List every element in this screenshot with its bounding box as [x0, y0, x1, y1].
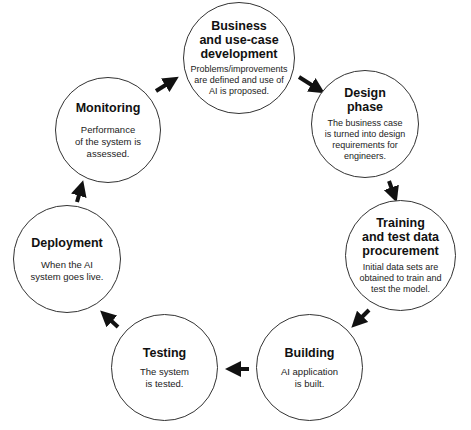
node-training-desc: Initial data sets are obtained to train … — [359, 262, 441, 295]
arrow-business-to-design-icon — [299, 77, 318, 89]
node-business: Business and use-case development Proble… — [183, 2, 295, 114]
node-deployment-title: Deployment — [31, 236, 103, 250]
node-design: Design phase The business case is turned… — [311, 70, 419, 178]
node-testing: Testing The system is tested. — [111, 314, 218, 421]
arrow-training-to-building-icon — [357, 310, 369, 322]
arrow-deployment-to-monitoring-icon — [77, 188, 81, 202]
node-testing-desc: The system is tested. — [140, 366, 189, 390]
node-business-title: Business and use-case development — [199, 19, 278, 61]
node-design-title: Design phase — [344, 86, 386, 114]
arrow-monitoring-to-business-icon — [156, 81, 172, 91]
node-building-title: Building — [285, 346, 335, 360]
node-design-desc: The business case is turned into design … — [325, 118, 406, 162]
node-testing-title: Testing — [143, 346, 187, 360]
arrow-testing-to-deployment-icon — [106, 316, 118, 327]
node-deployment: Deployment When the AI system goes live. — [13, 205, 121, 313]
node-business-desc: Problems/improvements are defined and us… — [190, 64, 287, 97]
node-deployment-desc: When the AI system goes live. — [31, 259, 104, 283]
node-building: Building AI application is built. — [256, 314, 363, 421]
node-monitoring: Monitoring Performance of the system is … — [55, 77, 161, 183]
node-monitoring-title: Monitoring — [76, 101, 141, 115]
node-monitoring-desc: Performance of the system is assessed. — [75, 124, 141, 160]
ai-lifecycle-diagram: Business and use-case development Proble… — [0, 0, 471, 430]
node-training-title: Training and test data procurement — [362, 216, 439, 258]
arrow-design-to-training-icon — [389, 181, 394, 195]
node-training: Training and test data procurement Initi… — [345, 200, 456, 311]
node-building-desc: AI application is built. — [281, 366, 338, 390]
